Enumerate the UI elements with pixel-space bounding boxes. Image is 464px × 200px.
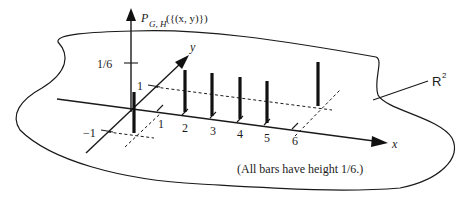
plane-region bbox=[16, 31, 454, 191]
grid-line-x1 bbox=[125, 113, 161, 147]
x-tick-label-1: 1 bbox=[158, 117, 164, 131]
x-ticks bbox=[157, 105, 298, 129]
x-tick-label-3: 3 bbox=[210, 124, 216, 138]
height-tick-label: 1/6 bbox=[97, 57, 112, 71]
plane-label-superscript: 2 bbox=[442, 71, 447, 80]
vertical-axis-arrow-icon bbox=[126, 8, 136, 21]
grid-line-yminus1 bbox=[108, 132, 154, 138]
y-tick-label-minus1: −1 bbox=[83, 126, 96, 140]
plane-leader-line bbox=[373, 81, 428, 100]
y-tick-label-1: 1 bbox=[137, 79, 143, 93]
vertical-axis-label-subscript: G, H bbox=[149, 19, 167, 29]
x-axis-arrow-icon bbox=[371, 136, 388, 147]
caption: (All bars have height 1/6.) bbox=[237, 162, 363, 176]
vertical-axis-label-prefix: P bbox=[140, 11, 149, 25]
plane-label: R bbox=[432, 74, 441, 89]
y-axis-label: y bbox=[189, 40, 196, 54]
x-tick-label-4: 4 bbox=[237, 127, 243, 141]
x-axis-label: x bbox=[391, 137, 398, 151]
x-tick-label-2: 2 bbox=[182, 121, 188, 135]
x-tick-label-6: 6 bbox=[292, 134, 298, 148]
vertical-axis-label-argument: ({(x, y)}) bbox=[166, 12, 208, 25]
y-tick-minus1 bbox=[101, 130, 113, 132]
x-tick-label-5: 5 bbox=[264, 131, 270, 145]
grid-line-y1 bbox=[155, 87, 332, 110]
probability-mass-diagram: R 2 P G, H ({(x, y)}) 1/6 x y 1 −1 1 2 3… bbox=[0, 0, 464, 200]
